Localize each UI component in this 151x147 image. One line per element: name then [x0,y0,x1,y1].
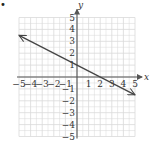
y-tick-label: −1 [62,84,75,94]
x-tick-label: 2 [97,79,103,89]
coordinate-plane: xy−5−4−3−2−11234554321−1−2−3−4−5 [0,0,151,147]
y-tick-label: −5 [62,132,76,142]
x-tick-label: 5 [132,79,138,89]
y-axis-label: y [77,0,84,10]
y-tick-label: 5 [69,13,75,23]
x-axis-label: x [144,72,149,82]
y-tick-label: 2 [69,48,75,58]
y-tick-label: −2 [62,96,75,106]
y-tick-label: −4 [62,120,76,130]
y-tick-label: −3 [62,108,76,118]
x-tick-label: 1 [86,79,92,89]
y-tick-label: 4 [69,24,75,34]
y-tick-label: 3 [69,36,75,46]
